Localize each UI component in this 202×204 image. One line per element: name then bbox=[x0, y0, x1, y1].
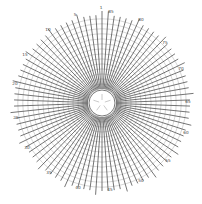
spoke-line bbox=[15, 88, 88, 101]
spoke-line bbox=[20, 108, 89, 136]
spoke-label: 5 bbox=[74, 12, 77, 17]
spoke-label: 1 bbox=[100, 5, 103, 10]
spoke-label: 65 bbox=[185, 99, 191, 104]
spoke-line bbox=[15, 105, 88, 118]
spoke-label: 35 bbox=[46, 170, 52, 175]
spoke-line bbox=[41, 40, 92, 93]
spoke-label: 15 bbox=[22, 52, 28, 57]
spoke-line bbox=[115, 108, 184, 136]
spoke-label: 50 bbox=[138, 178, 144, 183]
spoke-line bbox=[61, 25, 96, 90]
spoke-label: 20 bbox=[12, 81, 18, 86]
spoke-line bbox=[116, 88, 189, 101]
spoke-line bbox=[61, 115, 96, 180]
spoke-line bbox=[20, 70, 89, 98]
spoke-label: 10 bbox=[45, 27, 51, 32]
center-hub bbox=[89, 90, 115, 116]
polar-radial-diagram: 1510152025303540455055606570758085 bbox=[0, 0, 202, 204]
spoke-label: 40 bbox=[75, 185, 81, 190]
spoke-line bbox=[115, 70, 184, 98]
spoke-label: 25 bbox=[13, 115, 19, 120]
spoke-label: 70 bbox=[178, 66, 184, 71]
spoke-line bbox=[112, 113, 163, 166]
spoke-label: 30 bbox=[24, 145, 30, 150]
spoke-label: 55 bbox=[165, 158, 171, 163]
spoke-line bbox=[109, 25, 144, 90]
spoke-label: 80 bbox=[138, 17, 144, 22]
spoke-label: 60 bbox=[183, 130, 189, 135]
spoke-label: 45 bbox=[107, 187, 113, 192]
spoke-label: 85 bbox=[108, 9, 114, 14]
spoke-line bbox=[116, 105, 189, 118]
spoke-line bbox=[109, 115, 144, 180]
spoke-label: 75 bbox=[162, 40, 168, 45]
